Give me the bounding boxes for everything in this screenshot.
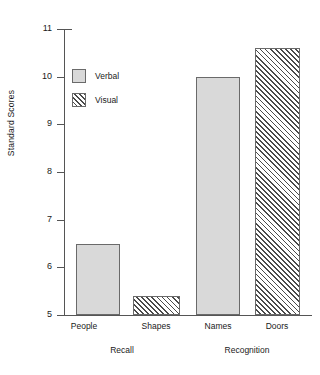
bar-chart: Standard Scores 11 10 9 8 7 6 5 Verbal xyxy=(0,0,320,375)
group-label-recall: Recall xyxy=(92,345,152,355)
y-tick-mark xyxy=(57,315,64,316)
y-tick-mark xyxy=(57,267,64,268)
bar-names xyxy=(196,77,240,315)
y-tick-mark xyxy=(57,77,64,78)
x-label-people: People xyxy=(56,321,112,331)
bar-shapes xyxy=(133,296,180,315)
y-tick-label: 8 xyxy=(34,167,52,176)
y-tick-label: 7 xyxy=(34,215,52,224)
x-axis-line xyxy=(64,315,312,316)
x-label-shapes: Shapes xyxy=(128,321,184,331)
x-label-doors: Doors xyxy=(249,321,305,331)
y-tick-label: 6 xyxy=(34,262,52,271)
plot-area xyxy=(64,29,312,315)
group-label-recognition: Recognition xyxy=(212,345,282,355)
y-tick-label: 9 xyxy=(34,119,52,128)
y-tick-label: 10 xyxy=(34,72,52,81)
bar-people xyxy=(76,244,120,316)
y-tick-label: 5 xyxy=(34,310,52,319)
x-label-names: Names xyxy=(190,321,246,331)
y-axis-title: Standard Scores xyxy=(6,68,16,178)
y-tick-label: 11 xyxy=(34,24,52,33)
y-tick-mark xyxy=(57,29,64,30)
y-tick-mark xyxy=(57,124,64,125)
bar-doors xyxy=(255,48,300,315)
y-tick-mark xyxy=(57,172,64,173)
y-tick-mark xyxy=(57,220,64,221)
